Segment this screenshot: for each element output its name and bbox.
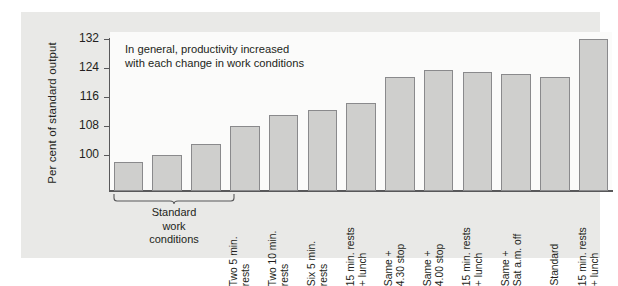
y-tick-label: 108 (59, 118, 99, 132)
bar-series (109, 32, 613, 191)
bar (424, 70, 454, 191)
x-tick-label: 15 min. rests+ lunch (344, 227, 367, 286)
bar (230, 126, 260, 191)
x-tick-label: Six 5 min.rests (306, 241, 329, 286)
x-tick-label: Same +4.00 stop (422, 244, 445, 286)
x-tick-label: 15 min. rests+ lunch (577, 227, 600, 286)
y-axis-label: Per cent of standard output (46, 38, 58, 188)
x-tick-label: Same +4.30 stop (383, 244, 406, 286)
y-tick-label: 100 (59, 147, 99, 161)
bar (385, 77, 415, 191)
bar (152, 155, 182, 191)
bar (540, 77, 570, 191)
x-tick-label: Standard (550, 244, 562, 286)
figure-panel: Per cent of standard output 100108116124… (21, 12, 600, 258)
bar (463, 72, 493, 191)
y-tick-label: 124 (59, 60, 99, 74)
bar (191, 144, 221, 191)
x-tick-label: Two 5 min.rests (228, 236, 251, 286)
bar (501, 74, 531, 191)
y-tick-label: 132 (59, 31, 99, 45)
bar (114, 162, 144, 191)
bar (346, 103, 376, 192)
bar (308, 110, 338, 191)
x-tick-label: 15 min. rests+ lunch (461, 227, 484, 286)
bar (579, 39, 609, 191)
bar (269, 115, 299, 191)
x-tick-label: Two 10 min.rests (267, 230, 290, 286)
x-axis-labels: Two 5 min.restsTwo 10 min.restsSix 5 min… (109, 194, 613, 286)
x-tick-label: Same +Sat a.m. off (499, 234, 522, 286)
y-tick-label: 116 (59, 89, 99, 103)
